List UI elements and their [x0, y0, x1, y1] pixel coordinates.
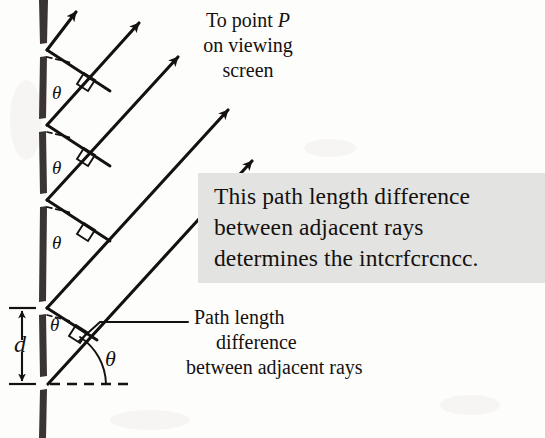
theta-label-ray-4: θ — [50, 314, 59, 335]
callout-line-3: determines the intcrfcrcncc. — [214, 243, 534, 274]
theta-label-ray-2: θ — [52, 157, 61, 178]
diffraction-grating — [39, 0, 48, 438]
point-p-symbol: P — [278, 9, 290, 31]
ray-2 — [47, 23, 139, 125]
callout-line-1: This path length difference — [214, 181, 534, 212]
slit-spacing-label-d: d — [14, 334, 26, 355]
callout-line-2: between adjacent rays — [214, 212, 534, 243]
ray-3 — [47, 57, 178, 200]
ray-1 — [47, 12, 76, 50]
theta-label-bottom: θ — [105, 348, 116, 369]
annotation-path-length-difference: Path length difference between adjacent … — [186, 305, 536, 380]
theta-label-ray-1: θ — [52, 82, 61, 103]
callout-box: This path length difference between adja… — [198, 173, 545, 283]
annotation-to-point-p-prefix: To point — [206, 9, 278, 31]
annotation-path-length-line-2: difference — [186, 330, 536, 355]
annotation-to-point-p: To point P on viewing screen — [178, 8, 318, 83]
theta-label-ray-3: θ — [52, 232, 61, 253]
diffraction-grating-figure: This path length difference between adja… — [0, 0, 545, 438]
annotation-path-length-line-3: between adjacent rays — [186, 355, 536, 380]
callout-text: This path length difference between adja… — [214, 181, 534, 274]
annotation-to-point-p-line-2: on viewing — [178, 33, 318, 58]
annotation-to-point-p-line-1: To point P — [178, 8, 318, 33]
annotation-to-point-p-line-3: screen — [178, 58, 318, 83]
annotation-path-length-line-1: Path length — [186, 305, 536, 330]
right-angle-markers — [69, 73, 95, 343]
